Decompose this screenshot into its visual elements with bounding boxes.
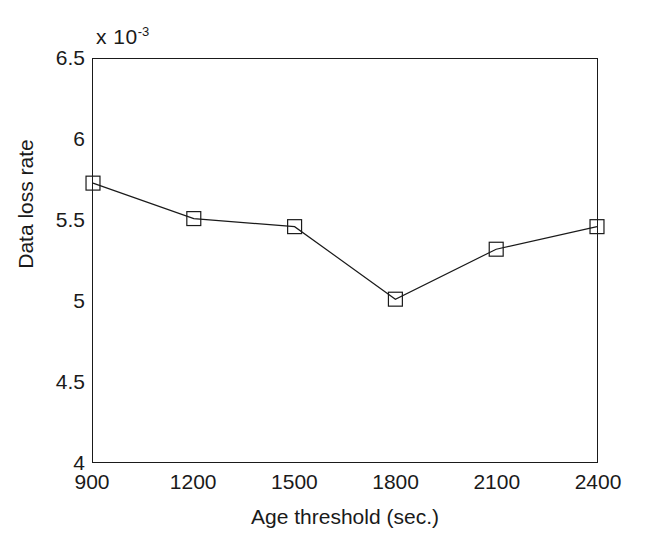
y-axis-multiplier-prefix: x 10 <box>96 25 138 48</box>
y-axis-tick-label: 6.5 <box>5 46 85 70</box>
y-axis-tick-label: 4.5 <box>5 370 85 394</box>
data-series-canvas <box>93 59 597 462</box>
x-axis-title: Age threshold (sec.) <box>92 505 598 529</box>
plot-area <box>92 58 598 463</box>
data-point-marker <box>86 176 100 190</box>
y-axis-title: Data loss rate <box>14 94 38 314</box>
y-axis-tick-label-group: 44.555.566.5 <box>0 0 85 548</box>
y-axis-multiplier-label: x 10-3 <box>96 24 149 49</box>
y-axis-multiplier-exponent: -3 <box>138 24 150 39</box>
data-line-0 <box>93 183 597 299</box>
chart-figure: x 10-3 44.555.566.5 90012001500180021002… <box>0 0 649 548</box>
x-axis-tick-label: 2400 <box>538 470 649 494</box>
